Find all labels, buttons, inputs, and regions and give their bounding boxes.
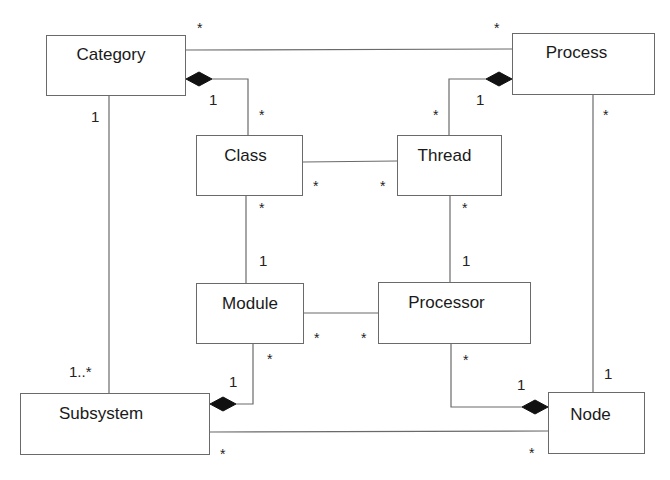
multiplicity-label: 1	[517, 377, 525, 392]
multiplicity-label: *	[259, 108, 264, 122]
assoc-node-processor	[451, 344, 522, 407]
multiplicity-label: 1	[229, 374, 237, 389]
multiplicity-label: 1	[604, 366, 612, 381]
multiplicity-label: 1	[259, 253, 267, 268]
class-box-processor[interactable]: Processor	[378, 282, 531, 344]
multiplicity-label: *	[267, 352, 272, 366]
assoc-class-thread	[303, 161, 397, 162]
multiplicity-label: *	[494, 21, 499, 35]
class-box-subsystem[interactable]: Subsystem	[20, 393, 210, 455]
multiplicity-label: *	[529, 446, 534, 460]
class-label: Class	[189, 146, 302, 166]
class-label: Module	[197, 294, 303, 314]
diamond-icon	[186, 72, 212, 86]
multiplicity-label: *	[197, 21, 202, 35]
multiplicity-label: *	[603, 108, 608, 122]
class-label: Node	[537, 405, 644, 425]
diamond-icon	[486, 72, 512, 86]
class-box-class[interactable]: Class	[196, 135, 303, 196]
class-box-thread[interactable]: Thread	[397, 135, 502, 196]
multiplicity-label: *	[259, 201, 264, 215]
assoc-subsystem-node	[210, 431, 548, 432]
multiplicity-label: *	[380, 179, 385, 193]
association-lines	[109, 49, 593, 432]
class-label: Category	[37, 45, 185, 65]
multiplicity-label: *	[361, 331, 366, 345]
composition-diamonds	[186, 72, 548, 414]
multiplicity-label: *	[314, 331, 319, 345]
multiplicity-label: *	[220, 447, 225, 461]
multiplicity-label: *	[313, 179, 318, 193]
class-label: Processor	[363, 293, 530, 313]
multiplicity-label: 1	[462, 253, 470, 268]
multiplicity-label: *	[463, 353, 468, 367]
diamond-icon	[210, 397, 236, 411]
class-label: Process	[499, 43, 654, 63]
assoc-category-class	[212, 79, 248, 135]
multiplicity-label: 1	[476, 92, 484, 107]
multiplicity-label: 1	[91, 109, 99, 124]
multiplicity-label: 1..*	[69, 364, 92, 379]
multiplicity-label: *	[462, 201, 467, 215]
class-box-process[interactable]: Process	[512, 33, 655, 95]
assoc-category-process	[186, 49, 512, 50]
class-box-node[interactable]: Node	[548, 392, 645, 454]
class-box-module[interactable]: Module	[196, 283, 304, 344]
class-label: Subsystem	[0, 404, 209, 424]
class-label: Thread	[388, 146, 501, 166]
assoc-subsystem-module	[236, 344, 253, 404]
multiplicity-label: *	[433, 108, 438, 122]
multiplicity-label: 1	[209, 92, 217, 107]
class-box-category[interactable]: Category	[46, 35, 186, 96]
